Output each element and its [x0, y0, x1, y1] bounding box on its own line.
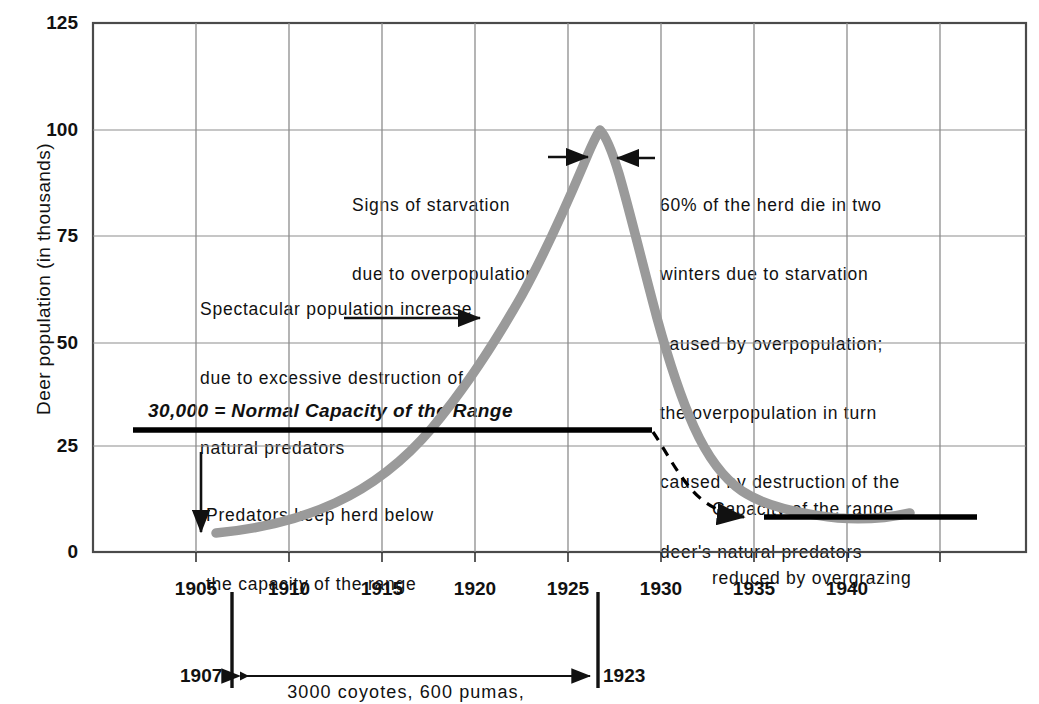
deer-population-chart: Deer population (in thousands) 125 100 7…	[0, 0, 1039, 704]
vertical-gridlines	[196, 23, 940, 552]
deer-population-curve	[216, 130, 910, 533]
plot-frame	[93, 23, 1026, 552]
timeline-bracket	[232, 592, 598, 688]
chart-graphics	[0, 0, 1039, 704]
x-axis-ticks	[196, 552, 940, 562]
horizontal-gridlines	[93, 130, 1026, 446]
